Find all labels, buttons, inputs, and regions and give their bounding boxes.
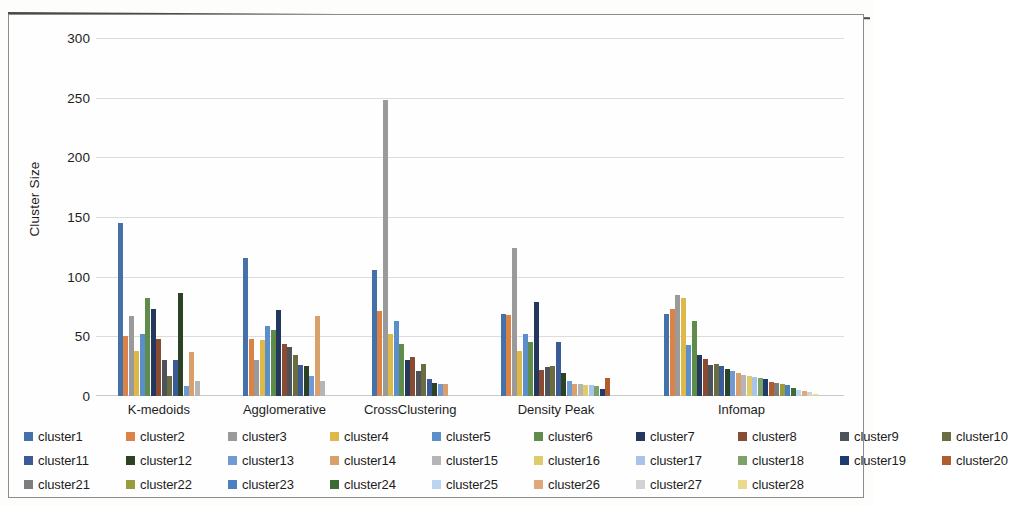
legend-item-cluster10[interactable]: cluster10 — [942, 429, 1013, 444]
bar-cluster6[interactable] — [692, 321, 697, 396]
bar-cluster14[interactable] — [315, 316, 320, 396]
legend-item-cluster28[interactable]: cluster28 — [738, 477, 840, 492]
bar-cluster4[interactable] — [517, 351, 522, 396]
bar-cluster12[interactable] — [304, 366, 309, 396]
legend-item-cluster23[interactable]: cluster23 — [228, 477, 330, 492]
bar-cluster3[interactable] — [512, 248, 517, 396]
bar-cluster9[interactable] — [416, 371, 421, 396]
legend-item-cluster4[interactable]: cluster4 — [330, 429, 432, 444]
bar-cluster23[interactable] — [785, 385, 790, 396]
bar-cluster7[interactable] — [534, 302, 539, 396]
legend-item-cluster26[interactable]: cluster26 — [534, 477, 636, 492]
bar-cluster20[interactable] — [769, 382, 774, 396]
legend-item-cluster8[interactable]: cluster8 — [738, 429, 840, 444]
legend-item-cluster3[interactable]: cluster3 — [228, 429, 330, 444]
bar-cluster8[interactable] — [703, 359, 708, 396]
bar-cluster12[interactable] — [725, 369, 730, 396]
bar-cluster7[interactable] — [276, 310, 281, 396]
legend-item-cluster14[interactable]: cluster14 — [330, 453, 432, 468]
bar-cluster22[interactable] — [780, 384, 785, 396]
bar-cluster20[interactable] — [605, 378, 610, 396]
bar-cluster6[interactable] — [145, 298, 150, 396]
legend-item-cluster17[interactable]: cluster17 — [636, 453, 738, 468]
bar-cluster19[interactable] — [763, 379, 768, 396]
bar-cluster5[interactable] — [394, 321, 399, 396]
bar-cluster12[interactable] — [178, 293, 183, 396]
legend-item-cluster1[interactable]: cluster1 — [24, 429, 126, 444]
bar-cluster1[interactable] — [372, 270, 377, 396]
bar-cluster1[interactable] — [664, 314, 669, 396]
bar-cluster4[interactable] — [681, 298, 686, 396]
bar-cluster19[interactable] — [600, 389, 605, 396]
bar-cluster9[interactable] — [287, 347, 292, 396]
legend-item-cluster12[interactable]: cluster12 — [126, 453, 228, 468]
bar-cluster4[interactable] — [260, 340, 265, 396]
bar-cluster18[interactable] — [594, 386, 599, 396]
bar-cluster11[interactable] — [173, 360, 178, 396]
bar-cluster10[interactable] — [167, 376, 172, 396]
legend-item-cluster19[interactable]: cluster19 — [840, 453, 942, 468]
bar-cluster10[interactable] — [714, 364, 719, 396]
bar-cluster5[interactable] — [265, 326, 270, 396]
bar-cluster13[interactable] — [184, 386, 189, 396]
bar-cluster11[interactable] — [719, 366, 724, 396]
legend-item-cluster24[interactable]: cluster24 — [330, 477, 432, 492]
bar-cluster3[interactable] — [383, 100, 388, 396]
legend-item-cluster13[interactable]: cluster13 — [228, 453, 330, 468]
bar-cluster4[interactable] — [134, 351, 139, 396]
legend-item-cluster15[interactable]: cluster15 — [432, 453, 534, 468]
bar-cluster8[interactable] — [282, 344, 287, 397]
bar-cluster1[interactable] — [118, 223, 123, 396]
legend-item-cluster5[interactable]: cluster5 — [432, 429, 534, 444]
bar-cluster1[interactable] — [243, 258, 248, 396]
bar-cluster2[interactable] — [670, 309, 675, 396]
legend-item-cluster18[interactable]: cluster18 — [738, 453, 840, 468]
bar-cluster4[interactable] — [388, 334, 393, 396]
bar-cluster2[interactable] — [123, 336, 128, 396]
bar-cluster8[interactable] — [410, 357, 415, 396]
bar-cluster6[interactable] — [399, 344, 404, 397]
bar-cluster9[interactable] — [545, 367, 550, 396]
bar-cluster15[interactable] — [195, 381, 200, 397]
bar-cluster21[interactable] — [774, 383, 779, 396]
bar-cluster6[interactable] — [271, 330, 276, 396]
bar-cluster11[interactable] — [298, 365, 303, 396]
legend-item-cluster16[interactable]: cluster16 — [534, 453, 636, 468]
legend-item-cluster2[interactable]: cluster2 — [126, 429, 228, 444]
bar-cluster12[interactable] — [561, 373, 566, 396]
bar-cluster14[interactable] — [443, 384, 448, 396]
bar-cluster3[interactable] — [129, 316, 134, 396]
bar-cluster1[interactable] — [501, 314, 506, 396]
legend-item-cluster21[interactable]: cluster21 — [24, 477, 126, 492]
legend-item-cluster25[interactable]: cluster25 — [432, 477, 534, 492]
bar-cluster12[interactable] — [432, 383, 437, 396]
bar-cluster7[interactable] — [697, 355, 702, 396]
bar-cluster25[interactable] — [796, 390, 801, 396]
bar-cluster8[interactable] — [156, 339, 161, 396]
bar-cluster13[interactable] — [309, 376, 314, 396]
legend-item-cluster6[interactable]: cluster6 — [534, 429, 636, 444]
bar-cluster18[interactable] — [758, 378, 763, 396]
bar-cluster3[interactable] — [254, 360, 259, 396]
legend-item-cluster9[interactable]: cluster9 — [840, 429, 942, 444]
bar-cluster2[interactable] — [249, 339, 254, 396]
bar-cluster5[interactable] — [523, 334, 528, 396]
bar-cluster14[interactable] — [572, 384, 577, 396]
bar-cluster10[interactable] — [550, 366, 555, 396]
bar-cluster28[interactable] — [813, 394, 818, 396]
bar-cluster3[interactable] — [675, 295, 680, 396]
bar-cluster10[interactable] — [293, 355, 298, 396]
bar-cluster14[interactable] — [189, 352, 194, 396]
bar-cluster2[interactable] — [506, 315, 511, 396]
bar-cluster24[interactable] — [791, 388, 796, 396]
bar-cluster13[interactable] — [567, 381, 572, 397]
legend-item-cluster22[interactable]: cluster22 — [126, 477, 228, 492]
bar-cluster26[interactable] — [802, 391, 807, 396]
bar-cluster17[interactable] — [589, 385, 594, 396]
legend-item-cluster7[interactable]: cluster7 — [636, 429, 738, 444]
bar-cluster8[interactable] — [539, 370, 544, 396]
bar-cluster5[interactable] — [140, 334, 145, 396]
bar-cluster17[interactable] — [752, 377, 757, 396]
bar-cluster16[interactable] — [747, 376, 752, 396]
bar-cluster11[interactable] — [427, 379, 432, 396]
